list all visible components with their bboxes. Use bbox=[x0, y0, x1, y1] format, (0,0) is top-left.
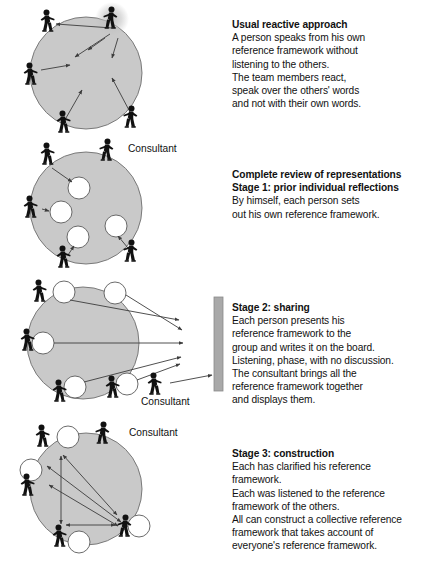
stage-3-construction-diagram bbox=[0, 0, 215, 562]
person-head bbox=[39, 425, 45, 431]
stage-2-text-line: The consultant brings all the bbox=[232, 367, 437, 380]
usual-reactive-approach-text-line: The team members react, bbox=[232, 71, 437, 84]
reference-framework-node bbox=[57, 426, 79, 448]
board-bar bbox=[214, 297, 223, 391]
stage-1-text-line: By himself, each person sets bbox=[232, 194, 437, 207]
consultant-label-stage-1: Consultant bbox=[128, 143, 177, 155]
diagram-canvas: Consultant Consultant Consultant Usual r… bbox=[0, 0, 440, 562]
usual-reactive-approach-text-line: reference framework without bbox=[232, 44, 437, 57]
person-head bbox=[123, 515, 129, 521]
person-head bbox=[56, 525, 62, 531]
usual-reactive-approach-text-line: and not with their own words. bbox=[232, 97, 437, 110]
person-torso bbox=[40, 430, 46, 438]
usual-reactive-approach-text-heading: Usual reactive approach bbox=[232, 18, 437, 31]
usual-reactive-approach-text-line: speak over the others' words bbox=[232, 84, 437, 97]
person-leg-back bbox=[38, 437, 43, 445]
stage-3-text-line: everyone's reference framework. bbox=[232, 539, 437, 552]
person-leg-front bbox=[43, 438, 48, 446]
consultant-label-stage-3: Consultant bbox=[129, 427, 178, 439]
person-head bbox=[24, 474, 30, 480]
stage-1-text-line: out his own reference framework. bbox=[232, 208, 437, 221]
stage-3-text-line: framework of the others. bbox=[232, 500, 437, 513]
person-foot-back bbox=[54, 545, 58, 547]
usual-reactive-approach-text: Usual reactive approachA person speaks f… bbox=[232, 18, 437, 110]
stage-1-text-heading: Complete review of representations bbox=[232, 168, 437, 181]
stage-1-text: Complete review of representationsStage … bbox=[232, 168, 437, 221]
person-leg-back bbox=[23, 486, 28, 494]
reference-framework-node bbox=[68, 531, 90, 553]
person-leg-back bbox=[55, 537, 60, 545]
consultant-label-stage-2: Consultant bbox=[141, 396, 190, 408]
stage-2-text-line: group and writes it on the board. bbox=[232, 341, 437, 354]
stage-3-text-line: Each has clarified his reference bbox=[232, 460, 437, 473]
stage-3-text-line: All can construct a collective reference bbox=[232, 513, 437, 526]
person-foot-back bbox=[22, 494, 26, 496]
usual-reactive-approach-text-line: listening to the others. bbox=[232, 58, 437, 71]
stage-3-text-line: framework that takes account of bbox=[232, 526, 437, 539]
stage-2-text-heading: Stage 2: sharing bbox=[232, 301, 437, 314]
stage-3-text-line: framework. bbox=[232, 473, 437, 486]
person-foot-back bbox=[103, 442, 107, 444]
person-foot-front bbox=[119, 535, 123, 537]
person-foot-back bbox=[37, 445, 41, 447]
stage-2-text-line: reference framework to the bbox=[232, 327, 437, 340]
stage-3-text-line: Each was listened to the reference bbox=[232, 487, 437, 500]
person-foot-back bbox=[125, 535, 129, 537]
person-foot-front bbox=[97, 442, 101, 444]
person-icon bbox=[36, 425, 50, 447]
person-foot-front bbox=[44, 445, 48, 447]
stage-3-text-heading: Stage 3: construction bbox=[232, 447, 437, 460]
stage-1-text-heading: Stage 1: prior individual reflections bbox=[232, 181, 437, 194]
stage-3-text: Stage 3: constructionEach has clarified … bbox=[232, 447, 437, 553]
person-torso bbox=[100, 427, 106, 435]
person-foot-front bbox=[29, 494, 33, 496]
stage-2-text-line: Listening, phase, with no discussion. bbox=[232, 354, 437, 367]
reference-framework-node bbox=[20, 459, 42, 481]
reference-framework-node bbox=[128, 515, 150, 537]
stage-2-text-line: and displays them. bbox=[232, 393, 437, 406]
person-foot-front bbox=[61, 545, 65, 547]
person-head bbox=[101, 422, 107, 428]
stage-2-text-line: Each person presents his bbox=[232, 314, 437, 327]
stage-2-text-line: reference framework together bbox=[232, 380, 437, 393]
stage-2-text: Stage 2: sharingEach person presents his… bbox=[232, 301, 437, 407]
usual-reactive-approach-text-line: A person speaks from his own bbox=[232, 31, 437, 44]
